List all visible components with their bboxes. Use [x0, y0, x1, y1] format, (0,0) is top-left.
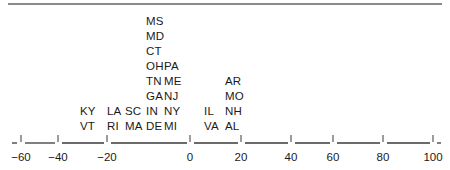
x-tick-label: −20: [97, 151, 117, 163]
x-tick-label: −60: [11, 151, 31, 163]
x-axis: [0, 0, 450, 170]
x-tick-label: 100: [423, 151, 442, 163]
x-tick-label: 20: [235, 151, 248, 163]
x-tick-label: 80: [377, 151, 390, 163]
x-tick-label: 60: [327, 151, 340, 163]
x-tick-label: 0: [187, 151, 193, 163]
x-tick-label: −40: [48, 151, 68, 163]
x-tick-label: 40: [285, 151, 298, 163]
